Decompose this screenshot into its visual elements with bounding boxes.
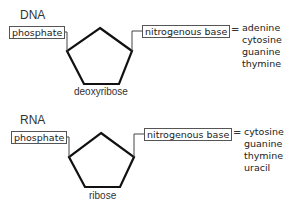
- rna-phosphate-label: phosphate: [11, 131, 67, 144]
- rna-base-list: cytosine guanine thymine uracil: [244, 126, 284, 174]
- rna-equals-sign: =: [233, 127, 241, 138]
- dna-sugar-label: deoxyribose: [74, 86, 128, 97]
- dna-sugar-pentagon: [67, 28, 132, 84]
- rna-base-item: guanine: [244, 138, 284, 150]
- rna-base-item: cytosine: [244, 126, 284, 138]
- rna-base-connector: [134, 134, 144, 157]
- rna-nitrogenous-base-label: nitrogenous base: [144, 128, 232, 141]
- rna-base-item: thymine: [244, 150, 284, 162]
- dna-base-item: guanine: [242, 46, 282, 58]
- rna-base-item: uracil: [244, 162, 284, 174]
- dna-nitrogenous-base-label: nitrogenous base: [142, 25, 230, 38]
- dna-base-connector: [132, 31, 142, 51]
- rna-title: RNA: [20, 113, 45, 127]
- dna-equals-sign: =: [231, 24, 239, 35]
- dna-title: DNA: [20, 8, 45, 22]
- rna-sugar-pentagon: [69, 133, 134, 187]
- dna-base-list: adenine cytosine guanine thymine: [242, 22, 282, 70]
- rna-sugar-label: ribose: [89, 190, 116, 201]
- dna-base-item: thymine: [242, 58, 282, 70]
- dna-base-item: adenine: [242, 22, 282, 34]
- dna-base-item: cytosine: [242, 34, 282, 46]
- dna-phosphate-label: phosphate: [9, 26, 65, 39]
